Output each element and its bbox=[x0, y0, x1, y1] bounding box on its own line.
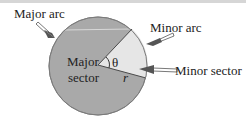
major-arc-arrow-icon bbox=[36, 22, 55, 38]
minor-sector-label: Minor sector bbox=[175, 63, 242, 78]
circle-sector-diagram: Major arc Minor arc Minor sector Major s… bbox=[0, 0, 246, 126]
major-sector-label-line1: Major bbox=[67, 54, 99, 69]
major-arc-label: Major arc bbox=[14, 6, 65, 21]
major-sector-label-line2: sector bbox=[68, 70, 100, 85]
theta-label: θ bbox=[112, 55, 118, 70]
minor-arc-label: Minor arc bbox=[150, 20, 202, 35]
